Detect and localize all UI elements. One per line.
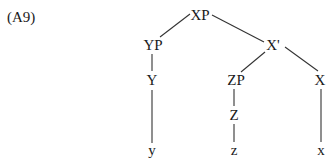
- node-x: X: [315, 72, 326, 88]
- node-xp: XP: [190, 7, 209, 23]
- node-yp: YP: [143, 37, 162, 53]
- node-y: Y: [147, 72, 158, 88]
- edge-xp-yp: [160, 14, 190, 37]
- node-x-bar: X': [266, 37, 280, 53]
- syntax-tree-diagram: (A9) XP YP X' Y ZP X Z y z x: [0, 0, 328, 165]
- leaf-x: x: [317, 142, 325, 158]
- edge-xp-xbar: [212, 15, 264, 42]
- node-zp: ZP: [227, 72, 245, 88]
- edge-xbar-zp: [241, 52, 265, 72]
- example-number: (A9): [7, 9, 35, 26]
- leaf-y: y: [148, 142, 156, 158]
- edge-xbar-x: [285, 47, 318, 71]
- leaf-z: z: [231, 142, 238, 158]
- node-z: Z: [229, 107, 238, 123]
